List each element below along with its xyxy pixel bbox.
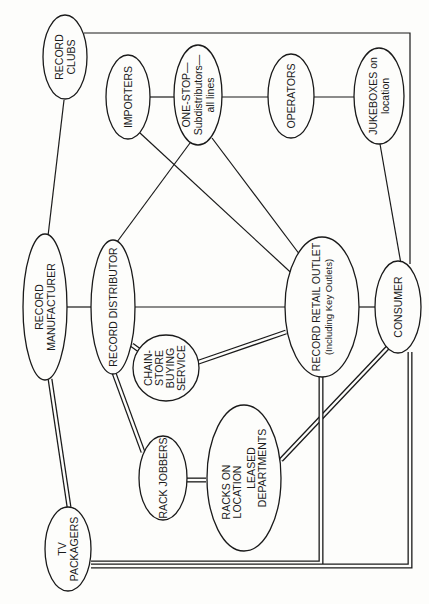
node-label: JUKEBOXES on xyxy=(367,57,379,135)
node-rack-jobbers: RACK JOBBERS xyxy=(139,436,187,520)
node-operators: OPERATORS xyxy=(268,54,314,138)
node-racks-on-location: RACKS ON LOCATION LEASED DEPARTMENTS xyxy=(207,405,281,551)
edge-importers-retail xyxy=(140,133,300,281)
node-label: (Including Key Outlets) xyxy=(323,259,334,355)
node-chain-store: CHAIN- STORE BUYING SERVICE xyxy=(133,335,199,401)
node-jukeboxes: JUKEBOXES on location xyxy=(354,48,404,144)
record-distribution-diagram: RECORD CLUBS IMPORTERS ONE-STOP— Subdist… xyxy=(0,0,429,604)
edge-one-stop-retail xyxy=(212,138,300,255)
edge-jukeboxes-consumer xyxy=(380,144,401,264)
node-label: RACK JOBBERS xyxy=(157,437,169,518)
node-label: MANUFACTURER xyxy=(45,263,57,351)
edge-manufacturer-tv-packagers xyxy=(50,379,69,507)
edge-record-clubs-manufacturer xyxy=(48,100,64,236)
node-label: RECORD DISTRIBUTOR xyxy=(107,247,119,367)
node-label: LOCATION xyxy=(231,466,243,519)
edge-chain-store-retail xyxy=(196,332,286,363)
edge-one-stop-distributor xyxy=(117,143,190,242)
node-label: SERVICE xyxy=(175,345,187,391)
node-label: ONE-STOP— xyxy=(180,62,192,128)
node-label: RECORD xyxy=(53,34,65,80)
node-consumer: CONSUMER xyxy=(375,261,421,353)
node-label: Subdistributors— xyxy=(192,54,204,135)
node-tv-packagers: TV PACKAGERS xyxy=(45,507,91,591)
node-label: all lines xyxy=(204,77,216,112)
node-record-retail-outlet: RECORD RETAIL OUTLET (Including Key Outl… xyxy=(285,237,359,377)
node-label: CONSUMER xyxy=(392,276,404,338)
node-label: TV xyxy=(56,542,68,555)
node-label: CLUBS xyxy=(65,39,77,74)
node-label: location xyxy=(379,78,391,114)
node-label: RECORD xyxy=(33,284,45,330)
node-label: RECORD RETAIL OUTLET xyxy=(310,242,322,371)
node-label: OPERATORS xyxy=(285,64,297,129)
node-record-distributor: RECORD DISTRIBUTOR xyxy=(91,240,135,374)
node-label: IMPORTERS xyxy=(122,66,134,128)
node-record-manufacturer: RECORD MANUFACTURER xyxy=(23,234,67,380)
node-label: DEPARTMENTS xyxy=(256,429,268,507)
node-label: PACKAGERS xyxy=(68,517,80,582)
node-importers: IMPORTERS xyxy=(106,55,150,139)
node-one-stop: ONE-STOP— Subdistributors— all lines xyxy=(174,45,222,145)
node-record-clubs: RECORD CLUBS xyxy=(43,15,87,99)
